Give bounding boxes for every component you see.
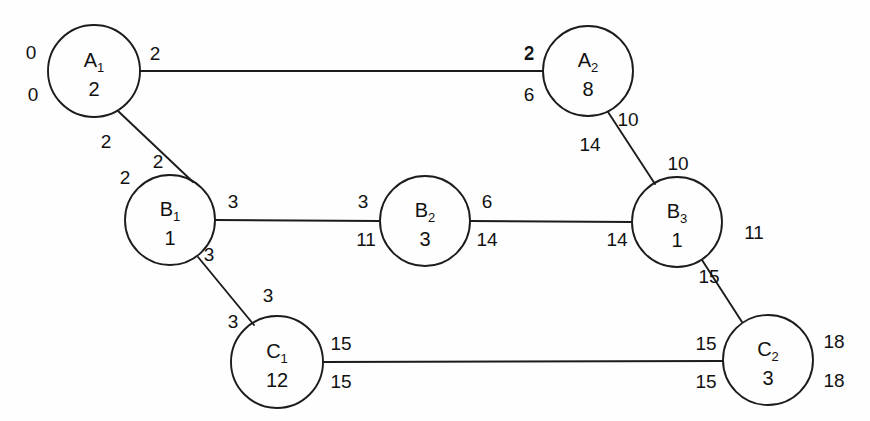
edge-label-a1-b1-lower-left: 2	[120, 167, 131, 188]
a2-late-start: 6	[524, 84, 535, 105]
edge-label-b1-b2-left: 3	[228, 191, 239, 212]
node-value-c2: 3	[762, 367, 773, 389]
node-label-b2: B2	[415, 199, 436, 225]
c2-early-finish: 18	[823, 331, 844, 352]
edge-label-b1-c1-right: 3	[263, 285, 274, 306]
edge-label-c1-c2-right-early: 15	[695, 333, 716, 354]
a1-early-start: 0	[26, 42, 37, 63]
node-subscript-b2: 2	[428, 210, 435, 225]
node-value-b1: 1	[164, 227, 175, 249]
edge-label-b2-b3-right-late: 14	[606, 229, 628, 250]
edge-label-c1-c2-left-early: 15	[330, 333, 351, 354]
node-subscript-a1: 1	[97, 60, 104, 75]
node-label-a2: A2	[578, 49, 599, 75]
network-graph: A12A28B11B23B31C112C23 22222331161414101…	[0, 0, 870, 421]
node-b2[interactable]: B23	[380, 176, 470, 266]
a1-late-start: 0	[28, 84, 39, 105]
node-circle-a1[interactable]	[48, 25, 140, 117]
node-subscript-a2: 2	[591, 60, 598, 75]
edge-label-b1-c1-left: 3	[228, 311, 239, 332]
node-circle-c2[interactable]	[723, 315, 813, 405]
edge-b1-c1	[198, 257, 254, 325]
node-a2[interactable]: A28	[543, 26, 633, 116]
node-label-a1: A1	[84, 49, 105, 75]
node-subscript-b1: 1	[173, 209, 180, 224]
node-c2[interactable]: C23	[723, 315, 813, 405]
edge-label-b3-c2-lower: 15	[698, 266, 719, 287]
edge-c1-c2	[323, 361, 723, 362]
node-circle-b1[interactable]	[125, 175, 215, 265]
a2-early-start: 2	[524, 42, 535, 63]
node-subscript-c1: 1	[281, 351, 288, 366]
edge-label-a1-b1-upper-right: 2	[153, 151, 164, 172]
edge-label-c1-c2-left-late: 15	[330, 371, 351, 392]
edge-label-b1-c1-upper: 3	[204, 244, 215, 265]
node-circle-a2[interactable]	[543, 26, 633, 116]
node-label-c2: C2	[757, 338, 779, 364]
edge-label-a2-b3-left: 14	[579, 134, 601, 155]
node-label-b3: B3	[667, 200, 688, 226]
node-subscript-b3: 3	[680, 211, 687, 226]
edge-label-a1-b1-upper-left: 2	[101, 131, 112, 152]
edge-b2-b3	[470, 221, 632, 222]
node-value-a1: 2	[88, 78, 99, 100]
edge-label-b2-left-late: 11	[356, 229, 376, 250]
node-b1[interactable]: B11	[125, 175, 215, 265]
node-label-c1: C1	[266, 340, 288, 366]
node-circle-b3[interactable]	[632, 177, 722, 267]
node-value-b2: 3	[419, 228, 430, 250]
edge-label-b3-c2-right: 11	[744, 222, 764, 243]
node-value-c1: 12	[266, 369, 288, 391]
edge-label-a2-b3-upper: 10	[617, 109, 638, 130]
node-b3[interactable]: B31	[632, 177, 722, 267]
node-subscript-c2: 2	[772, 349, 779, 364]
edge-label-b2-b3-left-late: 14	[476, 229, 498, 250]
edge-label-a2-b3-lower: 10	[667, 153, 688, 174]
network-diagram-canvas: A12A28B11B23B31C112C23 22222331161414101…	[0, 0, 870, 421]
node-value-b3: 1	[671, 229, 682, 251]
node-label-b1: B1	[160, 198, 181, 224]
edge-label-b1-b2-right: 3	[358, 191, 369, 212]
edge-b1-b2	[215, 220, 380, 221]
node-circle-b2[interactable]	[380, 176, 470, 266]
edge-label-c1-c2-right-late: 15	[695, 371, 716, 392]
node-c1[interactable]: C112	[231, 316, 323, 408]
node-value-a2: 8	[582, 78, 593, 100]
edge-label-b2-b3-left: 6	[482, 191, 493, 212]
node-circle-c1[interactable]	[231, 316, 323, 408]
edge-label-a1-a2-left: 2	[150, 43, 161, 64]
c2-late-finish: 18	[823, 370, 844, 391]
node-a1[interactable]: A12	[48, 25, 140, 117]
